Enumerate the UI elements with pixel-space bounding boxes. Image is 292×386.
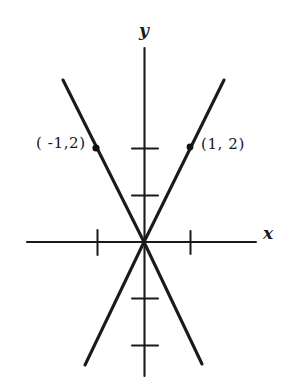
y-axis-label: y <box>139 22 149 39</box>
point-marker-1-2 <box>187 144 194 151</box>
point-label-neg1-2: ( -1,2) <box>36 136 86 151</box>
point-label-1-2: (1, 2) <box>201 137 245 152</box>
coordinate-plot <box>0 0 292 386</box>
line-upper-left-branch <box>63 80 144 242</box>
x-axis-label: x <box>263 225 273 242</box>
point-marker-neg1-2 <box>92 144 99 151</box>
line-upper-right-branch <box>144 80 224 242</box>
line-lower-left-branch <box>85 242 144 365</box>
graph-figure: y x ( -1,2) (1, 2) <box>0 0 292 386</box>
